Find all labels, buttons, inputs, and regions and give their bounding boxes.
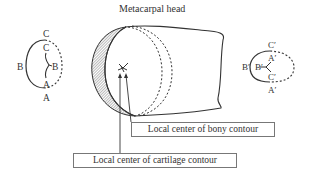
center-star-icon: [118, 63, 128, 72]
dashed-contour-1: [128, 27, 162, 116]
right-inner-label-top: A′: [268, 53, 276, 63]
metacarpal-head: [92, 26, 224, 162]
dashed-contour-2: [132, 26, 172, 116]
left-outer-label-left: B: [17, 62, 23, 72]
right-outer-label-top: C′: [268, 40, 276, 50]
right-inner-label-bottom: C′: [268, 72, 276, 82]
left-inner-curve: [45, 53, 49, 78]
bone-shaft-outline: [125, 26, 224, 116]
cartilage-center-callout: Local center of cartilage contour: [73, 153, 237, 168]
right-outer-label-bottom: A′: [268, 85, 276, 95]
left-inner-label-top: C: [43, 43, 49, 53]
right-inner-label-left: B′: [255, 62, 263, 72]
left-outer-label-top: C: [43, 29, 49, 39]
left-outer-label-bottom: A: [43, 93, 50, 103]
bony-center-callout: Local center of bony contour: [131, 122, 275, 137]
left-inner-label-right: B: [52, 62, 58, 72]
left-inner-label-bottom: A: [43, 80, 50, 90]
right-outer-label-left: B′: [242, 62, 250, 72]
